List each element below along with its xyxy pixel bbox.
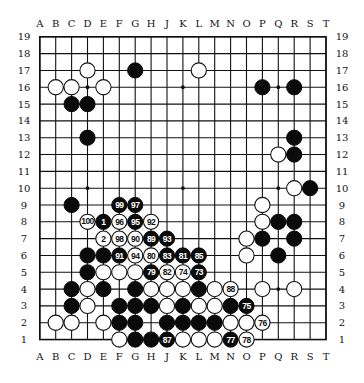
row-label: 17	[18, 65, 31, 76]
row-label: 19	[336, 31, 349, 42]
stone-circle	[287, 181, 302, 196]
black-stone	[223, 298, 238, 313]
black-stone	[80, 96, 95, 111]
row-label: 3	[339, 300, 345, 311]
black-stone: 75	[239, 298, 254, 313]
black-stone: 85	[191, 248, 206, 263]
stone-circle	[96, 248, 111, 263]
white-stone	[207, 282, 222, 297]
row-label: 4	[21, 284, 27, 295]
column-label: J	[164, 18, 169, 29]
row-label: 5	[339, 267, 345, 278]
column-label: H	[147, 18, 156, 29]
black-stone	[287, 130, 302, 145]
white-stone: 92	[144, 214, 159, 229]
star-point	[276, 85, 280, 89]
column-label: L	[195, 351, 202, 362]
black-stone	[175, 298, 190, 313]
stone-circle	[287, 214, 302, 229]
white-stone	[159, 298, 174, 313]
white-stone	[271, 147, 286, 162]
black-stone	[64, 282, 79, 297]
column-label: P	[259, 18, 266, 29]
stone-circle	[207, 315, 222, 330]
white-stone	[191, 298, 206, 313]
black-stone	[64, 298, 79, 313]
column-label: G	[131, 351, 139, 362]
move-number: 79	[147, 267, 156, 277]
white-stone	[255, 197, 270, 212]
row-label: 7	[21, 233, 27, 244]
stone-circle	[287, 282, 302, 297]
stone-circle	[191, 298, 206, 313]
black-stone	[287, 147, 302, 162]
black-stone: 89	[144, 231, 159, 246]
row-label: 10	[336, 183, 349, 194]
move-number: 76	[258, 318, 267, 328]
stone-circle	[96, 282, 111, 297]
move-number: 99	[115, 200, 124, 210]
black-stone	[287, 214, 302, 229]
black-stone	[112, 298, 127, 313]
column-label: F	[116, 351, 123, 362]
black-stone	[287, 80, 302, 95]
column-label: D	[83, 351, 91, 362]
stone-circle	[207, 282, 222, 297]
stone-circle	[159, 315, 174, 330]
move-number: 94	[131, 251, 140, 261]
column-labels-top: ABCDEFGHJKLMNOPQRST	[35, 18, 329, 29]
stone-circle	[80, 96, 95, 111]
row-label: 18	[18, 48, 31, 59]
black-stone: 93	[159, 231, 174, 246]
stone-circle	[191, 315, 206, 330]
column-label: Q	[274, 18, 282, 29]
stone-circle	[64, 282, 79, 297]
black-stone: 87	[159, 332, 174, 347]
column-label: M	[210, 18, 220, 29]
stone-circle	[144, 332, 159, 347]
stone-circle	[191, 282, 206, 297]
white-stone	[175, 282, 190, 297]
stone-circle	[223, 315, 238, 330]
white-stone: 80	[144, 248, 159, 263]
row-label: 13	[336, 132, 349, 143]
row-label: 9	[21, 200, 27, 211]
column-label: A	[35, 351, 44, 362]
row-label: 1	[339, 334, 345, 345]
white-stone	[48, 315, 63, 330]
black-stone	[191, 315, 206, 330]
row-label: 12	[336, 149, 349, 160]
stone-circle	[175, 282, 190, 297]
stone-circle	[271, 147, 286, 162]
column-label: H	[147, 351, 156, 362]
row-label: 1	[21, 334, 27, 345]
stone-circle	[287, 231, 302, 246]
move-number: 85	[195, 251, 204, 261]
white-stone: 98	[112, 231, 127, 246]
stone-circle	[175, 332, 190, 347]
white-stone	[287, 181, 302, 196]
stone-circle	[80, 282, 95, 297]
white-stone: 88	[223, 282, 238, 297]
stone-circle	[64, 197, 79, 212]
column-label: Q	[274, 351, 282, 362]
move-number: 87	[163, 335, 172, 345]
stone-circle	[64, 315, 79, 330]
row-label: 2	[339, 317, 345, 328]
black-stone	[96, 248, 111, 263]
stone-circle	[48, 80, 63, 95]
stone-circle	[128, 315, 143, 330]
stone-circle	[223, 298, 238, 313]
stone-circle	[239, 315, 254, 330]
white-stone	[175, 332, 190, 347]
column-label: F	[116, 18, 123, 29]
row-label: 14	[336, 115, 349, 126]
stone-circle	[255, 214, 270, 229]
stone-circle	[128, 63, 143, 78]
stone-circle	[175, 315, 190, 330]
white-stone	[96, 265, 111, 280]
column-label: R	[290, 18, 298, 29]
column-label: N	[226, 351, 235, 362]
black-stone: 83	[159, 248, 174, 263]
column-label: C	[68, 18, 76, 29]
